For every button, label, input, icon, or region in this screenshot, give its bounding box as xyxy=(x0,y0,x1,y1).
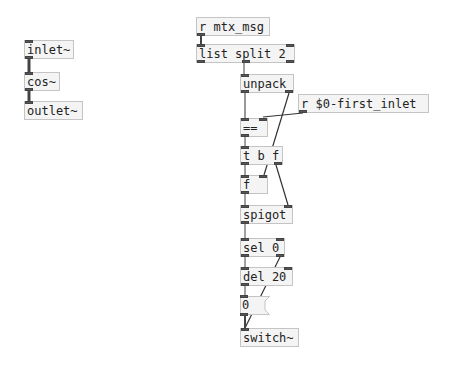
object-unpack[interactable]: unpack xyxy=(240,74,294,93)
object-inlet-tilde[interactable]: inlet~ xyxy=(24,40,74,59)
outlet-port-left[interactable] xyxy=(241,162,249,165)
object-outlet-tilde[interactable]: outlet~ xyxy=(24,101,83,120)
object-float[interactable]: f xyxy=(240,175,268,194)
outlet-port[interactable] xyxy=(197,33,205,36)
object-text: r $0-first_inlet xyxy=(301,97,417,111)
object-text: t b f xyxy=(243,149,279,163)
message-text: 0 xyxy=(242,297,249,313)
object-text: inlet~ xyxy=(27,43,70,57)
message-box-0[interactable]: 0 xyxy=(240,296,270,315)
pd-patch-canvas[interactable]: inlet~ cos~ outlet~ r mtx_msg list split… xyxy=(0,0,450,369)
outlet-port-left[interactable] xyxy=(241,90,249,93)
outlet-port[interactable] xyxy=(240,313,248,316)
object-equals[interactable]: == xyxy=(240,118,268,137)
object-text: r mtx_msg xyxy=(199,20,264,34)
object-text: f xyxy=(243,178,250,192)
inlet-port-right[interactable] xyxy=(286,44,294,47)
object-text: sel 0 xyxy=(243,241,279,255)
object-text: del 20 xyxy=(243,270,286,284)
object-switch-tilde[interactable]: switch~ xyxy=(240,328,299,347)
object-receive-mtx-msg[interactable]: r mtx_msg xyxy=(196,17,270,36)
outlet-port[interactable] xyxy=(25,56,33,59)
inlet-port-right[interactable] xyxy=(259,175,267,178)
object-text: switch~ xyxy=(243,331,294,345)
object-text: == xyxy=(243,121,257,135)
object-list-split[interactable]: list split 2 xyxy=(196,44,295,63)
object-text: unpack xyxy=(243,77,286,91)
outlet-port[interactable] xyxy=(25,88,33,91)
object-delay-20[interactable]: del 20 xyxy=(240,267,293,286)
outlet-port[interactable] xyxy=(197,60,205,63)
object-cos-tilde[interactable]: cos~ xyxy=(24,72,60,91)
outlet-port-right[interactable] xyxy=(285,90,293,93)
object-receive-first-inlet[interactable]: r $0-first_inlet xyxy=(298,94,429,113)
object-spigot[interactable]: spigot xyxy=(240,205,293,224)
object-text: outlet~ xyxy=(27,104,78,118)
outlet-port[interactable] xyxy=(241,134,249,137)
object-trigger-b-f[interactable]: t b f xyxy=(240,146,283,165)
outlet-port[interactable] xyxy=(241,221,249,224)
outlet-port[interactable] xyxy=(241,191,249,194)
object-select-0[interactable]: sel 0 xyxy=(240,238,285,257)
outlet-port-middle[interactable] xyxy=(242,60,250,63)
outlet-port-right[interactable] xyxy=(274,162,282,165)
object-text: list split 2 xyxy=(199,47,286,61)
outlet-port-right[interactable] xyxy=(286,60,294,63)
outlet-port-left[interactable] xyxy=(241,254,249,257)
object-text: cos~ xyxy=(27,75,56,89)
outlet-port[interactable] xyxy=(299,110,307,113)
object-text: spigot xyxy=(243,208,286,222)
outlet-port[interactable] xyxy=(241,283,249,286)
outlet-port-right[interactable] xyxy=(276,254,284,257)
inlet-port-right[interactable] xyxy=(259,118,267,121)
